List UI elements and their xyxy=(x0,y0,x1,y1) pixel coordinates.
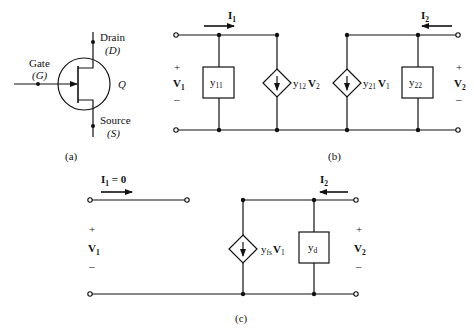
source-node xyxy=(91,124,95,128)
device-label: Q xyxy=(118,78,126,90)
jfet-symbol xyxy=(14,32,110,137)
y12v2-label: y12V2 xyxy=(293,77,320,91)
terminal-2-top xyxy=(456,33,460,37)
drain-label: Drain xyxy=(100,31,126,43)
terminal-2-top xyxy=(354,198,358,202)
caption-c: (c) xyxy=(235,312,248,325)
terminal-2-bottom xyxy=(354,292,358,296)
terminal-1-open xyxy=(185,198,189,202)
y21v1-label: y21V1 xyxy=(363,77,390,91)
v2-minus: – xyxy=(355,260,362,272)
terminal-1-bottom xyxy=(174,128,178,132)
terminal-1-top xyxy=(88,198,92,202)
v2-plus: + xyxy=(356,223,362,235)
terminal-1-top xyxy=(174,33,178,37)
drain-lead xyxy=(78,32,93,68)
drain-node xyxy=(91,40,95,44)
source-symbol: (S) xyxy=(107,127,120,140)
v2-label: V2 xyxy=(454,77,466,92)
i2-label: I2 xyxy=(421,9,429,24)
v2-plus: + xyxy=(456,61,462,73)
terminal-1-bottom xyxy=(88,292,92,296)
i2-label: I2 xyxy=(320,173,328,188)
v1-label: V1 xyxy=(173,77,185,92)
i1-label: I1 xyxy=(228,9,236,24)
v2-minus: – xyxy=(455,93,462,105)
v2-label: V2 xyxy=(354,242,366,257)
gate-symbol: (G) xyxy=(32,69,48,82)
i1-zero-label: I1 = 0 xyxy=(101,173,127,188)
fet-y-parameter-diagram: Drain (D) Gate (G) Q Source (S) (a) xyxy=(0,0,474,329)
v1-label: V1 xyxy=(88,242,100,257)
v1-minus: – xyxy=(173,93,180,105)
source-label: Source xyxy=(100,114,131,126)
simplified-fet-model xyxy=(88,192,358,296)
gate-node xyxy=(36,82,40,86)
v1-plus: + xyxy=(174,61,180,73)
source-lead xyxy=(78,100,93,137)
v1-plus: + xyxy=(89,223,95,235)
caption-b: (b) xyxy=(328,150,341,163)
v1-minus: – xyxy=(88,260,95,272)
caption-a: (a) xyxy=(65,150,78,163)
drain-symbol: (D) xyxy=(105,44,121,57)
terminal-2-bottom xyxy=(456,128,460,132)
gate-label: Gate xyxy=(29,57,50,69)
yfsv1-label: yfsV1 xyxy=(261,243,285,257)
y-parameter-network xyxy=(174,26,460,132)
